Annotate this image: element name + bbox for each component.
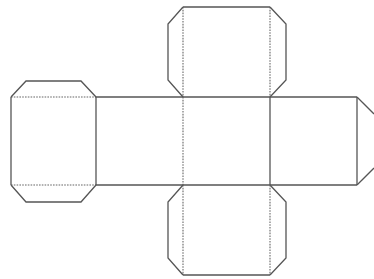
cube-net-diagram	[0, 0, 374, 279]
bottom-face-left-tab	[168, 185, 183, 275]
face-left	[11, 97, 96, 185]
face-center-left	[96, 97, 183, 185]
top-face-left-tab	[168, 7, 183, 97]
face-center	[183, 97, 270, 185]
right-face-right-tab-lower	[357, 168, 374, 185]
top-face-right-tab	[270, 7, 286, 97]
left-face-bottom-tab	[11, 185, 96, 202]
face-bottom	[183, 185, 270, 275]
bottom-face-right-tab	[270, 185, 286, 275]
face-center-right	[270, 97, 357, 185]
right-face-right-tab	[357, 97, 374, 114]
face-top	[183, 7, 270, 97]
left-face-top-tab	[11, 81, 96, 97]
